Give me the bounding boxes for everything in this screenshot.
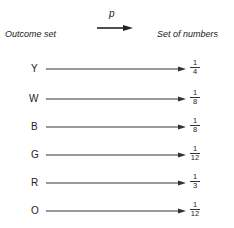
- probability-fraction: 13: [188, 173, 202, 190]
- outcome-set-label: Outcome set: [5, 29, 56, 39]
- outcome-letter: W: [29, 93, 38, 104]
- outcome-letter: B: [31, 121, 38, 132]
- probability-fraction: 112: [188, 201, 202, 218]
- outcome-letter: Y: [31, 63, 38, 74]
- mapping-row-g: G 112: [0, 147, 234, 171]
- probability-fraction: 14: [188, 59, 202, 76]
- mapping-row-y: Y 14: [0, 61, 234, 85]
- arrow-icon: [46, 152, 186, 158]
- probability-fraction: 18: [188, 89, 202, 106]
- mapping-row-o: O 112: [0, 203, 234, 227]
- mapping-row-b: B 18: [0, 119, 234, 143]
- outcome-letter: R: [31, 177, 38, 188]
- outcome-letter: G: [31, 149, 39, 160]
- arrow-icon: [46, 66, 186, 72]
- function-p-label: p: [109, 8, 115, 19]
- arrow-icon: [46, 124, 186, 130]
- arrow-icon: [46, 180, 186, 186]
- mapping-row-w: W 18: [0, 91, 234, 115]
- mapping-row-r: R 13: [0, 175, 234, 199]
- set-of-numbers-label: Set of numbers: [157, 29, 218, 39]
- probability-fraction: 18: [188, 117, 202, 134]
- probability-fraction: 112: [188, 145, 202, 162]
- outcome-letter: O: [31, 205, 39, 216]
- mapping-arrow-icon: [97, 25, 133, 31]
- arrow-icon: [46, 208, 186, 214]
- arrow-icon: [46, 96, 186, 102]
